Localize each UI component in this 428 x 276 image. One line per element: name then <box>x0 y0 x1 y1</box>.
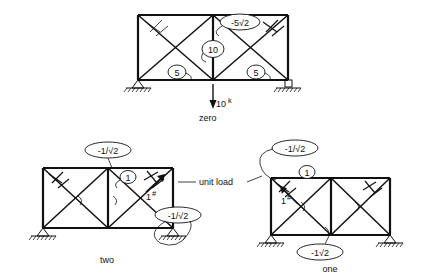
applied-load-label: 10 <box>216 99 226 109</box>
zero-force-break-left <box>146 20 168 36</box>
force-value: 10 <box>208 45 218 55</box>
two-truss-support-roller-right <box>159 228 186 240</box>
panel-loaded-truss: 10 k zero 5 10 5 -5√2 <box>124 14 301 123</box>
two-truss-chords <box>43 168 173 228</box>
top-truss-support-roller-right <box>274 80 301 92</box>
two-truss-left-diagonals <box>43 168 108 228</box>
unit-load-callout-text: unit load <box>199 177 233 187</box>
unit-load-magnitude: 1 <box>146 192 151 202</box>
panel-virtual-system-one: 1 # -1/√2 1 -1√2 one <box>257 140 403 274</box>
two-force-label-neg1overroot2-top: -1/√2 <box>85 142 131 168</box>
force-value: 5 <box>253 68 258 78</box>
diagram-canvas: 10 k zero 5 10 5 -5√2 <box>0 0 428 276</box>
force-label-5-right: 5 <box>247 65 270 80</box>
force-label-neg5root2: -5√2 <box>216 14 260 36</box>
one-truss-left-diagonals <box>271 178 331 236</box>
force-value: 1 <box>304 168 309 178</box>
two-truss-support-pin-left <box>29 228 56 240</box>
unit-load-annotation: unit load <box>178 176 262 187</box>
caption-one: one <box>322 264 337 274</box>
caption-two: two <box>100 255 114 265</box>
caption-zero: zero <box>199 113 217 123</box>
force-value: 5 <box>174 68 179 78</box>
unit-load-magnitude: 1 <box>281 196 286 206</box>
top-truss-support-pin-left <box>124 80 151 92</box>
unit-load-unit: # <box>152 189 157 198</box>
force-value: -5√2 <box>231 18 249 28</box>
one-truss-support-roller-right <box>376 235 403 247</box>
force-value: -1/√2 <box>285 144 305 154</box>
force-value: -1/√2 <box>98 146 118 156</box>
zero-force-break-left <box>49 172 69 188</box>
force-label-5-left: 5 <box>168 65 191 80</box>
one-truss-support-pin-left <box>257 235 284 247</box>
two-force-label-neg1overroot2-support: -1/√2 <box>154 207 201 245</box>
force-value: 1 <box>125 173 130 183</box>
one-force-label-neg1root2: -1√2 <box>297 236 343 260</box>
force-value: -1/√2 <box>168 211 188 221</box>
one-truss-right-diagonals <box>331 178 390 235</box>
force-value: -1√2 <box>311 248 329 258</box>
one-force-label-1: 1 <box>299 166 315 179</box>
one-truss-chords <box>271 178 390 235</box>
applied-load-unit: k <box>228 96 232 105</box>
panel-virtual-system-two: 1 # -1/√2 1 -1/√2 two <box>29 142 201 265</box>
